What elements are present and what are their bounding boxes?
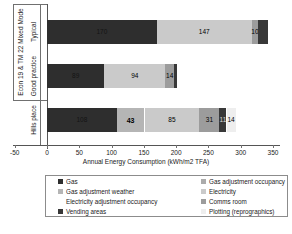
legend-item: Comms room xyxy=(201,197,287,206)
bar-segment: 14 xyxy=(227,108,236,132)
segment-label: 94 xyxy=(131,73,138,80)
legend-swatch xyxy=(58,199,63,204)
legend-swatch xyxy=(201,189,206,194)
x-tick xyxy=(112,145,113,148)
bar-segment: 89 xyxy=(47,64,104,88)
legend-label: Gas adjustment occupancy xyxy=(209,178,285,185)
x-tick-label: 200 xyxy=(161,149,191,156)
x-tick-label: 100 xyxy=(97,149,127,156)
x-tick xyxy=(79,145,80,148)
x-axis-title: Annual Energy Consumption (kWh/m2 TFA) xyxy=(14,158,278,165)
x-tick-label: 350 xyxy=(258,149,288,156)
segment-label: 85 xyxy=(168,117,175,124)
x-tick-label: 50 xyxy=(64,149,94,156)
segment-label: 31 xyxy=(206,117,213,124)
legend-label: Comms room xyxy=(209,198,247,205)
legend-label: Electricity xyxy=(209,188,236,195)
x-tick xyxy=(47,145,48,148)
x-tick xyxy=(176,145,177,148)
x-tick xyxy=(208,145,209,148)
legend-swatch xyxy=(201,199,206,204)
segment-label: 11 xyxy=(220,117,227,124)
legend: GasGas adjustment occupancyGas adjustmen… xyxy=(45,175,288,217)
legend-label: Vending areas xyxy=(66,208,106,215)
bar-segment xyxy=(258,20,268,44)
legend-label: Gas xyxy=(66,178,78,185)
bar-segment: 170 xyxy=(47,20,157,44)
x-tick xyxy=(241,145,242,148)
legend-item: Gas adjustment occupancy xyxy=(201,177,287,186)
legend-swatch xyxy=(58,209,63,214)
legend-swatch xyxy=(58,189,63,194)
segment-label: 170 xyxy=(96,29,107,36)
x-tick xyxy=(273,145,274,148)
plot-area: -500501001502002503003501701471089941410… xyxy=(0,0,292,160)
segment-label: 14 xyxy=(166,73,173,80)
segment-label: 89 xyxy=(72,73,79,80)
bar-segment xyxy=(174,64,177,88)
x-tick xyxy=(144,145,145,148)
x-tick xyxy=(15,145,16,148)
segment-label: 147 xyxy=(199,29,210,36)
x-tick-label: 150 xyxy=(129,149,159,156)
legend-swatch xyxy=(58,179,63,184)
bar-segment: 94 xyxy=(104,64,165,88)
bar-segment: 85 xyxy=(145,108,200,132)
x-tick-label: 300 xyxy=(226,149,256,156)
legend-item: Vending areas xyxy=(58,207,201,216)
bar-segment: 11 xyxy=(219,108,226,132)
legend-label: Plotting (reprographics) xyxy=(209,208,274,215)
segment-label: 108 xyxy=(76,117,87,124)
bar-segment: 108 xyxy=(47,108,117,132)
segment-label: 14 xyxy=(227,117,234,124)
legend-item: Gas xyxy=(58,177,201,186)
bar-segment: 43 xyxy=(117,108,145,132)
legend-item: Plotting (reprographics) xyxy=(201,207,287,216)
chart-canvas: Econ 19 & TM 22 Mixed Mode Typical Good … xyxy=(0,0,292,234)
bar-segment: 147 xyxy=(157,20,252,44)
bar-segment: 31 xyxy=(199,108,219,132)
legend-label: Electricity adjustment occupancy xyxy=(66,198,157,205)
legend-item: Gas adjustment weather xyxy=(58,187,201,196)
x-tick-label: 0 xyxy=(32,149,62,156)
x-tick-label: 250 xyxy=(193,149,223,156)
legend-item: Electricity adjustment occupancy xyxy=(58,197,201,206)
segment-label: 43 xyxy=(127,117,135,124)
legend-swatch xyxy=(201,179,206,184)
legend-swatch xyxy=(201,209,206,214)
bar-segment: 14 xyxy=(165,64,174,88)
legend-item: Electricity xyxy=(201,187,287,196)
x-tick-label: -50 xyxy=(0,149,30,156)
legend-label: Gas adjustment weather xyxy=(66,188,134,195)
